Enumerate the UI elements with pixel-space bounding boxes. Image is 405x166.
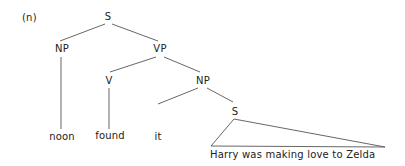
edge-s-np xyxy=(60,24,105,41)
node-vp: VP xyxy=(153,43,166,55)
edge-np-s xyxy=(207,88,233,102)
node-s-embedded: S xyxy=(232,106,239,118)
edge-s-vp xyxy=(112,24,158,41)
clause-triangle xyxy=(211,119,385,147)
node-np-object: NP xyxy=(196,75,210,87)
example-label: (n) xyxy=(22,12,37,24)
node-v: V xyxy=(105,75,112,87)
leaf-found: found xyxy=(95,130,125,142)
edge-vp-np xyxy=(164,57,200,72)
leaf-it: it xyxy=(154,131,161,143)
node-s-root: S xyxy=(105,11,112,23)
leaf-noon: noon xyxy=(49,131,75,143)
edge-np-it xyxy=(158,88,198,104)
leaf-clause: Harry was making love to Zelda xyxy=(210,149,375,161)
node-np-subject: NP xyxy=(55,43,69,55)
edge-vp-v xyxy=(110,57,156,72)
